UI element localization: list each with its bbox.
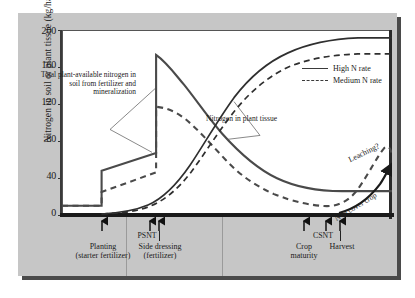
x-label-csnt: CSNT [306,231,340,240]
y-tick-40: 40 [30,170,56,181]
panel-shadow-right [397,17,401,280]
legend-item-medium-n: Medium N rate [302,75,382,87]
leader-soil-annotation [110,89,155,153]
x-label-side-dressing-main: Side dressing [124,242,196,251]
annotation-plant-tissue: Nitrogen in plant tissue [206,115,277,124]
y-tick-200: 200 [30,25,56,36]
x-label-side-dressing: Side dressing (fertilizer) [124,242,196,261]
panel-shadow-bottom [22,276,401,280]
x-label-harvest: Harvest [318,242,366,251]
legend-item-high-n: High N rate [302,63,382,75]
x-label-psnt: PSNT [126,231,168,240]
y-tick-80: 80 [30,133,56,144]
legend-label-high-n: High N rate [333,63,371,75]
legend-label-medium-n: Medium N rate [333,75,382,87]
csnt-stem [340,231,341,241]
y-tick-160: 160 [30,59,56,70]
x-label-crop-maturity-sub: maturity [276,251,332,260]
annotation-soil-nitrogen: Total plant-available nitrogen in soil f… [40,71,136,97]
figure-panel: Nitrogen in soil or plant tissue (kg/ha)… [18,13,397,276]
x-label-side-dressing-sub: (fertilizer) [124,251,196,260]
figure-root: Nitrogen in soil or plant tissue (kg/ha)… [0,0,415,298]
legend-swatch-solid [302,68,328,69]
psnt-stem [159,231,160,241]
x-label-harvest-main: Harvest [318,242,366,251]
y-tick-120: 120 [30,96,56,107]
legend: High N rate Medium N rate [302,63,382,86]
legend-swatch-dashed [302,80,328,81]
